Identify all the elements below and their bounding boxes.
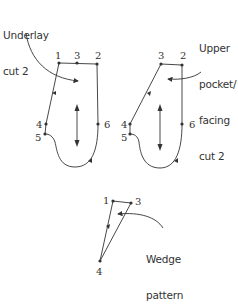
point-label: 3 — [74, 50, 80, 61]
upper-pocket-piece — [130, 64, 201, 168]
point-label: 6 — [104, 119, 110, 130]
point-label: 3 — [158, 50, 164, 61]
upper-pocket-leader-arrow — [168, 72, 201, 79]
wedge-label: Wedge pattern — [146, 229, 183, 305]
wedge-leader-arrow — [118, 214, 163, 228]
point-label: 1 — [103, 195, 109, 206]
point-label: 2 — [95, 50, 101, 61]
point-label: 4 — [121, 119, 127, 130]
label-line: pocket/ — [199, 78, 236, 90]
point-label: 5 — [35, 132, 41, 143]
point-label: 4 — [36, 119, 42, 130]
point-label: 4 — [96, 266, 102, 277]
label-line: Upper — [199, 42, 236, 54]
label-line: Wedge — [146, 253, 183, 265]
label-line: Underlay — [3, 29, 49, 41]
label-line: cut 2 — [3, 65, 49, 77]
label-line: pattern — [146, 289, 183, 301]
notch-icon — [147, 91, 151, 96]
point-label: 5 — [121, 132, 127, 143]
point-label: 1 — [55, 50, 61, 61]
label-line: facing — [199, 114, 236, 126]
point-label: 2 — [180, 50, 186, 61]
point-label: 6 — [189, 119, 195, 130]
point-label: 3 — [135, 196, 141, 207]
upper-pocket-label: Upper pocket/ facing cut 2 — [199, 18, 236, 174]
underlay-label: Underlay cut 2 — [3, 5, 49, 89]
label-line: cut 2 — [199, 150, 236, 162]
notch-icon — [88, 158, 92, 163]
